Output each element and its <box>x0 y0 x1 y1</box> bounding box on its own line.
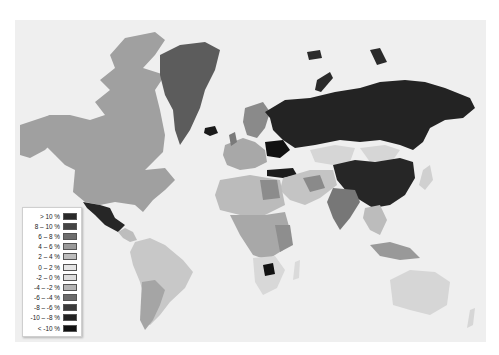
legend-label: -10 – -8 % <box>31 314 60 321</box>
region-australia[interactable] <box>390 270 450 315</box>
region-southern-africa[interactable] <box>253 256 285 295</box>
map-legend: > 10 % 8 – 10 % 6 – 8 % 4 – 6 % 2 – 4 % … <box>22 207 82 337</box>
region-franz-josef[interactable] <box>307 50 322 60</box>
region-mexico[interactable] <box>83 202 125 232</box>
region-new-zealand[interactable] <box>467 308 475 328</box>
legend-item: -2 – 0 % <box>23 272 81 282</box>
legend-item: < -10 % <box>23 323 81 333</box>
region-india[interactable] <box>327 188 360 230</box>
region-novaya-zemlya[interactable] <box>315 72 333 92</box>
legend-label: -8 – -6 % <box>34 304 60 311</box>
region-scandinavia[interactable] <box>243 102 270 138</box>
legend-label: 4 – 6 % <box>38 243 60 250</box>
region-russia[interactable] <box>265 80 475 150</box>
legend-item: 2 – 4 % <box>23 252 81 262</box>
legend-swatch <box>63 284 77 291</box>
legend-item: -6 – -4 % <box>23 293 81 303</box>
legend-label: 0 – 2 % <box>38 264 60 271</box>
legend-swatch <box>63 243 77 250</box>
legend-swatch <box>63 304 77 311</box>
legend-swatch <box>63 314 77 321</box>
region-alaska[interactable] <box>20 115 55 158</box>
region-japan[interactable] <box>419 165 433 190</box>
legend-item: 0 – 2 % <box>23 262 81 272</box>
world-map <box>15 20 486 342</box>
legend-item: -10 – -8 % <box>23 313 81 323</box>
region-southeast-asia[interactable] <box>363 205 387 235</box>
legend-item: 4 – 6 % <box>23 242 81 252</box>
legend-label: -6 – -4 % <box>34 294 60 301</box>
legend-label: -4 – -2 % <box>34 284 60 291</box>
map-panel: > 10 % 8 – 10 % 6 – 8 % 4 – 6 % 2 – 4 % … <box>15 20 486 342</box>
region-severnaya[interactable] <box>370 48 387 65</box>
legend-swatch <box>63 294 77 301</box>
legend-swatch <box>63 264 77 271</box>
legend-item: > 10 % <box>23 211 81 221</box>
legend-label: 2 – 4 % <box>38 253 60 260</box>
legend-swatch <box>63 274 77 281</box>
legend-label: > 10 % <box>40 213 60 220</box>
legend-swatch <box>63 253 77 260</box>
region-botswana[interactable] <box>263 263 275 276</box>
region-central-america[interactable] <box>118 228 137 242</box>
legend-swatch <box>63 325 77 332</box>
legend-item: -8 – -6 % <box>23 303 81 313</box>
region-south-america[interactable] <box>130 238 193 325</box>
legend-label: < -10 % <box>38 325 60 332</box>
region-indonesia[interactable] <box>370 242 420 260</box>
region-canada[interactable] <box>35 32 165 175</box>
region-madagascar[interactable] <box>293 260 300 280</box>
region-ukraine[interactable] <box>265 140 290 158</box>
legend-swatch <box>63 233 77 240</box>
region-europe-west[interactable] <box>223 138 267 170</box>
region-egypt[interactable] <box>260 180 280 200</box>
legend-label: 6 – 8 % <box>38 233 60 240</box>
legend-swatch <box>63 223 77 230</box>
legend-swatch <box>63 213 77 220</box>
legend-item: -4 – -2 % <box>23 282 81 292</box>
legend-item: 8 – 10 % <box>23 221 81 231</box>
legend-label: 8 – 10 % <box>35 223 60 230</box>
region-iceland[interactable] <box>204 126 218 136</box>
legend-label: -2 – 0 % <box>36 274 60 281</box>
legend-item: 6 – 8 % <box>23 231 81 241</box>
